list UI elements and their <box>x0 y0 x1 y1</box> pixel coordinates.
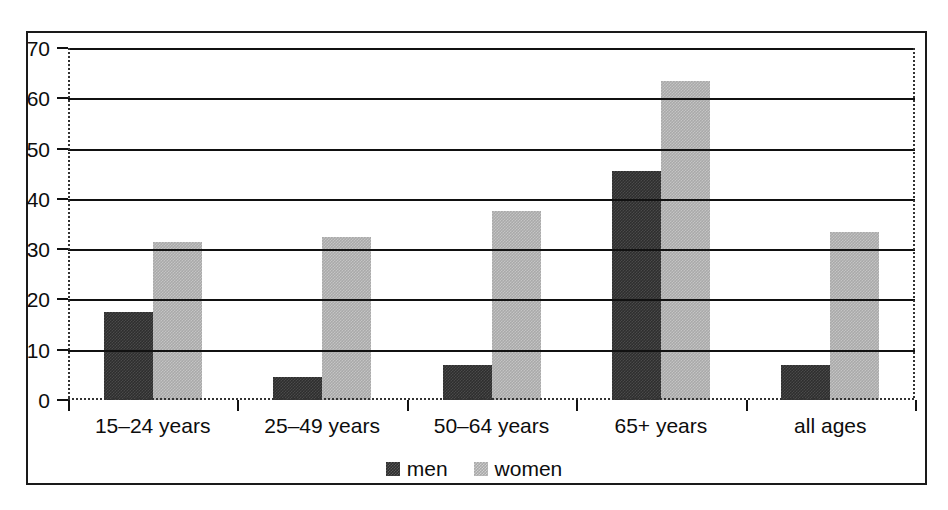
legend-item-women: women <box>474 458 563 479</box>
chart-legend: menwomen <box>0 458 948 479</box>
plot-area <box>68 48 915 400</box>
x-category-label-2: 50–64 years <box>434 415 550 436</box>
x-category-label-1: 25–49 years <box>264 415 380 436</box>
gridline <box>68 48 915 50</box>
x-tick-mark <box>237 400 239 411</box>
x-category-label-0: 15–24 years <box>95 415 211 436</box>
legend-item-men: men <box>386 458 448 479</box>
x-tick-mark <box>576 400 578 411</box>
y-axis-right-spine <box>913 48 915 400</box>
gridline <box>68 249 915 251</box>
bar-women-4 <box>830 232 879 400</box>
x-category-label-4: all ages <box>794 415 866 436</box>
bar-men-4 <box>781 365 830 400</box>
bar-men-2 <box>443 365 492 400</box>
bar-men-1 <box>273 377 322 400</box>
gridline <box>68 98 915 100</box>
gridline <box>68 299 915 301</box>
x-tick-mark <box>407 400 409 411</box>
legend-swatch-men <box>386 462 400 476</box>
bar-men-0 <box>104 312 153 400</box>
bar-women-1 <box>322 237 371 400</box>
x-axis-baseline <box>68 398 915 400</box>
gridline <box>68 199 915 201</box>
legend-label-men: men <box>407 458 448 479</box>
legend-label-women: women <box>495 458 563 479</box>
bar-women-0 <box>153 242 202 400</box>
x-tick-mark <box>915 400 917 411</box>
y-axis-left-spine <box>68 48 70 400</box>
bar-women-3 <box>661 81 710 400</box>
legend-swatch-women <box>474 462 488 476</box>
bar-women-2 <box>492 211 541 400</box>
x-category-label-3: 65+ years <box>614 415 707 436</box>
x-tick-mark <box>68 400 70 411</box>
bar-men-3 <box>612 171 661 400</box>
x-tick-mark <box>746 400 748 411</box>
gridline <box>68 350 915 352</box>
gridline <box>68 149 915 151</box>
